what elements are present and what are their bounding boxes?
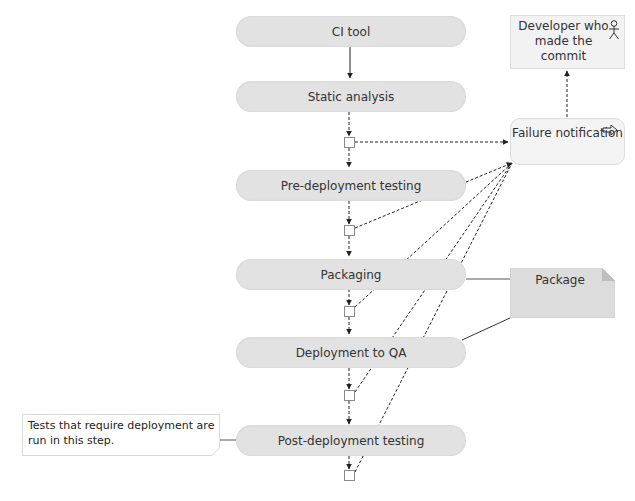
decision-node-2[interactable] [344,225,355,236]
step-deployment-to-qa[interactable]: Deployment to QA [236,337,466,368]
step-ci-tool[interactable]: CI tool [236,16,466,47]
step-packaging[interactable]: Packaging [236,259,466,290]
failure-notification-box[interactable]: Failure notification [510,118,625,165]
step-label: Pre-deployment testing [281,179,422,193]
step-static-analysis[interactable]: Static analysis [236,81,466,112]
actor-icon [608,20,620,40]
package-label: Package [510,273,610,287]
developer-box[interactable]: Developer who made the commit [510,15,625,69]
decision-node-3[interactable] [344,306,355,317]
decision-node-5[interactable] [344,470,355,481]
package-line-deploy [462,318,510,340]
decision-node-1[interactable] [344,137,355,148]
note-text: Tests that require deployment are run in… [28,418,218,448]
send-arrow-icon [602,124,618,136]
step-post-deployment-testing[interactable]: Post-deployment testing [236,425,466,456]
decision-node-4[interactable] [344,390,355,401]
package-artifact[interactable]: Package [510,268,615,318]
step-label: Static analysis [308,90,395,104]
step-label: Packaging [321,268,382,282]
step-pre-deployment-testing[interactable]: Pre-deployment testing [236,170,466,201]
step-label: Deployment to QA [296,346,407,360]
step-label: Post-deployment testing [278,434,425,448]
step-label: CI tool [332,25,370,39]
note-box[interactable]: Tests that require deployment are run in… [22,414,220,456]
